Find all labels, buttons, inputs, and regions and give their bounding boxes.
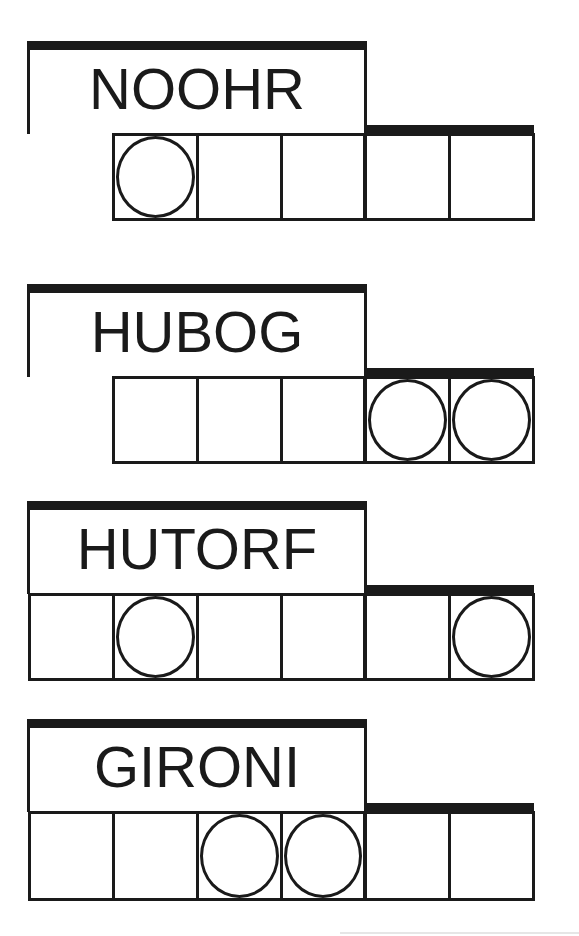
answer-cells [112,376,535,464]
scrambled-word: HUTORF [30,514,364,584]
answer-cells [28,811,535,901]
circled-letter-marker-icon [116,136,195,218]
answer-cell-4[interactable] [283,814,367,898]
answer-cells [28,593,535,681]
circled-letter-marker-icon [200,814,279,898]
answer-cell-5[interactable] [367,814,451,898]
circled-letter-marker-icon [368,379,447,461]
scrambled-word: GIRONI [30,732,364,802]
circled-letter-marker-icon [452,379,531,461]
answer-cells [112,133,535,221]
scrambled-word-box: GIRONI [27,719,367,812]
answer-cell-3[interactable] [283,379,367,461]
answer-cell-2[interactable] [115,814,199,898]
answer-cell-4[interactable] [367,379,451,461]
answer-cell-2[interactable] [115,596,199,678]
scrambled-word: NOOHR [30,54,364,124]
answer-cell-1[interactable] [31,814,115,898]
circled-letter-marker-icon [452,596,531,678]
answer-cell-6[interactable] [451,814,535,898]
scan-edge-line [340,932,579,934]
circled-letter-marker-icon [284,814,362,898]
scrambled-word-box: HUBOG [27,284,367,377]
answer-cell-4[interactable] [283,596,367,678]
answer-cell-2[interactable] [199,379,283,461]
answer-cell-5[interactable] [367,596,451,678]
answer-cell-2[interactable] [199,136,283,218]
answer-cell-1[interactable] [115,379,199,461]
answer-cell-5[interactable] [451,136,535,218]
scrambled-word-box: NOOHR [27,41,367,134]
answer-cell-5[interactable] [451,379,535,461]
answer-cell-3[interactable] [283,136,367,218]
answer-cell-1[interactable] [31,596,115,678]
answer-cell-6[interactable] [451,596,535,678]
circled-letter-marker-icon [116,596,195,678]
answer-cell-1[interactable] [115,136,199,218]
answer-cell-4[interactable] [367,136,451,218]
answer-cell-3[interactable] [199,814,283,898]
answer-cell-3[interactable] [199,596,283,678]
scrambled-word: HUBOG [30,297,364,367]
scrambled-word-box: HUTORF [27,501,367,594]
